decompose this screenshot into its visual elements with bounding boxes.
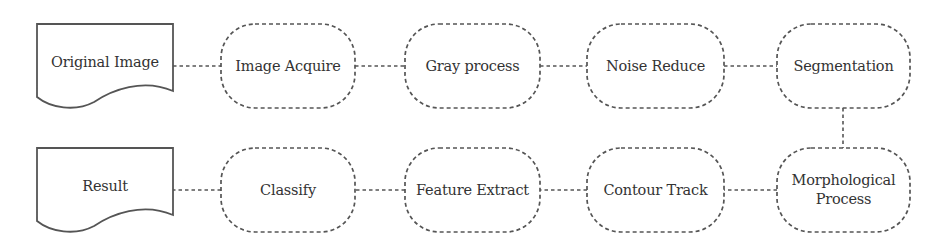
node-label-noise-reduce: Noise Reduce bbox=[587, 24, 724, 108]
node-label-classify: Classify bbox=[221, 148, 355, 232]
node-label-original-image: Original Image bbox=[37, 24, 173, 108]
node-label-morphological-process: Morphological Process bbox=[777, 148, 910, 232]
node-label-gray-process: Gray process bbox=[405, 24, 540, 108]
node-label-segmentation: Segmentation bbox=[777, 24, 910, 108]
node-label-contour-track: Contour Track bbox=[587, 148, 724, 232]
node-label-result: Result bbox=[37, 148, 173, 232]
node-label-image-acquire: Image Acquire bbox=[221, 24, 355, 108]
node-label-feature-extract: Feature Extract bbox=[405, 148, 540, 232]
